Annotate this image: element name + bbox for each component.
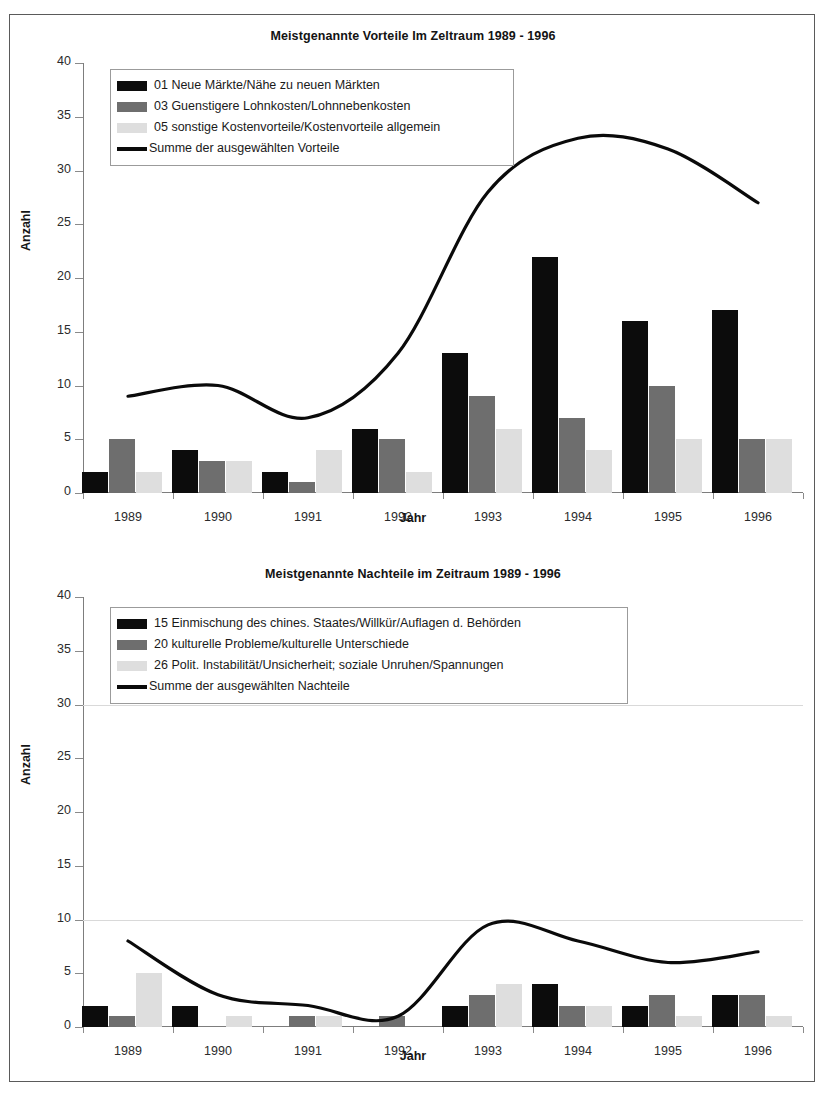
y-axis-tick — [75, 597, 83, 598]
x-axis-tick — [263, 493, 264, 499]
chart-nachteile: Meistgenannte Nachteile im Zeitraum 1989… — [10, 549, 816, 1083]
legend-item-label: 01 Neue Märkte/Nähe zu neuen Märkten — [154, 79, 380, 92]
x-axis-tick — [803, 493, 804, 499]
y-axis-tick — [75, 117, 83, 118]
y-axis-tick-label: 20 — [37, 269, 71, 283]
y-axis-tick-label: 40 — [37, 54, 71, 68]
y-axis-tick — [75, 973, 83, 974]
y-axis-title-vorteile: Anzahl — [19, 210, 33, 251]
legend-color-swatch-icon — [117, 123, 147, 133]
legend-color-swatch-icon — [117, 640, 147, 650]
chart-title-nachteile: Meistgenannte Nachteile im Zeitraum 1989… — [10, 567, 816, 581]
y-axis-tick-label: 0 — [37, 484, 71, 498]
legend-line-swatch-icon — [117, 685, 147, 689]
x-axis-tick — [623, 1027, 624, 1033]
y-axis-tick — [75, 1027, 83, 1028]
x-axis-tick — [443, 493, 444, 499]
legend-item: 03 Guenstigere Lohnkosten/Lohnnebenkoste… — [117, 96, 505, 117]
x-axis-title-nachteile: Jahr — [10, 1049, 816, 1063]
x-axis-tick — [353, 493, 354, 499]
legend-vorteile: 01 Neue Märkte/Nähe zu neuen Märkten03 G… — [110, 69, 514, 166]
legend-item: 20 kulturelle Probleme/kulturelle Unters… — [117, 634, 619, 655]
y-axis-tick-label: 5 — [37, 430, 71, 444]
y-axis-tick — [75, 758, 83, 759]
y-axis-tick — [75, 63, 83, 64]
legend-item-label: 05 sonstige Kostenvorteile/Kostenvorteil… — [154, 121, 440, 134]
legend-item-label: Summe der ausgewählten Nachteile — [149, 680, 350, 693]
y-axis-tick-label: 10 — [37, 911, 71, 925]
y-axis-tick-label: 20 — [37, 803, 71, 817]
legend-item: 26 Polit. Instabilität/Unsicherheit; soz… — [117, 655, 619, 676]
x-axis-tick — [173, 1027, 174, 1033]
x-axis-tick — [263, 1027, 264, 1033]
x-axis-title-vorteile: Jahr — [10, 511, 816, 525]
x-axis-tick — [83, 1027, 84, 1033]
legend-line-swatch-icon — [117, 147, 147, 151]
legend-item: 15 Einmischung des chines. Staates/Willk… — [117, 613, 619, 634]
y-axis-tick — [75, 332, 83, 333]
y-axis-tick — [75, 812, 83, 813]
y-axis-tick-label: 35 — [37, 642, 71, 656]
y-axis-tick — [75, 171, 83, 172]
page-frame: Meistgenannte Vorteile Im Zeltraum 1989 … — [9, 14, 815, 1082]
y-axis-tick-label: 30 — [37, 162, 71, 176]
y-axis-tick — [75, 278, 83, 279]
y-axis-tick-label: 25 — [37, 215, 71, 229]
x-axis-tick — [173, 493, 174, 499]
y-axis-title-nachteile: Anzahl — [19, 744, 33, 785]
chart-title-vorteile: Meistgenannte Vorteile Im Zeltraum 1989 … — [10, 29, 816, 43]
legend-item: 05 sonstige Kostenvorteile/Kostenvorteil… — [117, 117, 505, 138]
legend-item-label: Summe der ausgewählten Vorteile — [149, 142, 339, 155]
y-axis-tick — [75, 224, 83, 225]
y-axis-tick — [75, 439, 83, 440]
y-axis-tick-label: 40 — [37, 588, 71, 602]
x-axis-tick — [83, 493, 84, 499]
x-axis-tick — [803, 1027, 804, 1033]
y-axis-tick-label: 30 — [37, 696, 71, 710]
y-axis-tick — [75, 866, 83, 867]
chart-vorteile: Meistgenannte Vorteile Im Zeltraum 1989 … — [10, 15, 816, 549]
legend-item-label: 15 Einmischung des chines. Staates/Willk… — [154, 617, 521, 630]
legend-item-label: 03 Guenstigere Lohnkosten/Lohnnebenkoste… — [154, 100, 410, 113]
y-axis-tick-label: 15 — [37, 857, 71, 871]
x-axis-tick — [443, 1027, 444, 1033]
x-axis-tick — [623, 493, 624, 499]
y-axis-tick — [75, 493, 83, 494]
sum-line — [128, 135, 758, 418]
y-axis-tick — [75, 386, 83, 387]
y-axis-tick — [75, 651, 83, 652]
x-axis-tick — [353, 1027, 354, 1033]
legend-color-swatch-icon — [117, 81, 147, 91]
y-axis-tick-label: 15 — [37, 323, 71, 337]
x-axis-tick — [713, 1027, 714, 1033]
legend-item-label: 26 Polit. Instabilität/Unsicherheit; soz… — [154, 659, 504, 672]
y-axis-tick — [75, 705, 83, 706]
x-axis-tick — [713, 493, 714, 499]
y-axis-tick-label: 5 — [37, 964, 71, 978]
sum-line — [128, 921, 758, 1021]
legend-item: Summe der ausgewählten Vorteile — [117, 138, 505, 159]
legend-color-swatch-icon — [117, 102, 147, 112]
y-axis-tick-label: 0 — [37, 1018, 71, 1032]
y-axis-tick — [75, 920, 83, 921]
legend-nachteile: 15 Einmischung des chines. Staates/Willk… — [110, 607, 628, 704]
legend-item: 01 Neue Märkte/Nähe zu neuen Märkten — [117, 75, 505, 96]
x-axis-tick — [533, 1027, 534, 1033]
y-axis-tick-label: 25 — [37, 749, 71, 763]
legend-color-swatch-icon — [117, 661, 147, 671]
legend-color-swatch-icon — [117, 619, 147, 629]
legend-item: Summe der ausgewählten Nachteile — [117, 676, 619, 697]
y-axis-tick-label: 10 — [37, 377, 71, 391]
legend-item-label: 20 kulturelle Probleme/kulturelle Unters… — [154, 638, 409, 651]
y-axis-tick-label: 35 — [37, 108, 71, 122]
x-axis-tick — [533, 493, 534, 499]
